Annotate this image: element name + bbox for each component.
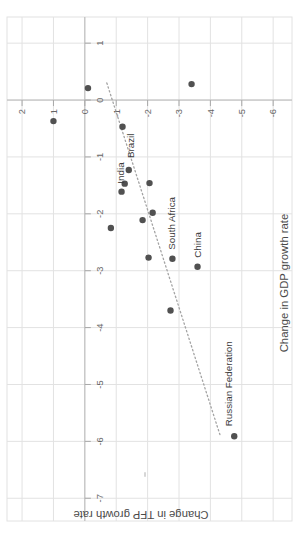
gridlines [7,17,292,521]
rotated-chart-wrapper: 10-1-2-3-4-5-6-7210-1-2-3-4-5-6 BrazilIn… [0,0,303,533]
data-point [169,256,175,262]
y-tick-label: -6 [268,109,278,117]
country-label: India [115,162,126,184]
x-tick-label: -4 [95,323,105,331]
data-point [167,307,173,313]
x-tick-label: 1 [95,41,105,46]
y-tick-label: -2 [143,109,153,117]
country-label: Brazil [125,134,136,159]
scatter-chart: 10-1-2-3-4-5-6-7210-1-2-3-4-5-6 BrazilIn… [0,0,303,533]
x-tick-label: -6 [95,437,105,445]
plot-border [7,17,292,521]
x-tick-label: -2 [95,210,105,218]
point-labels: BrazilIndiaSouth AfricaChinaRussian Fede… [115,134,234,427]
x-axis-title: Change in GDP growth rate [278,214,290,353]
data-points [50,81,237,440]
x-tick-label: -7 [95,494,105,502]
data-point [194,264,200,270]
data-point [85,85,91,91]
stray-mark [144,472,146,477]
y-tick-label: -3 [174,109,184,117]
x-tick-label: 0 [95,97,105,102]
data-point [139,217,145,223]
x-tick-label: -3 [95,267,105,275]
screenshot-canvas: 10-1-2-3-4-5-6-7210-1-2-3-4-5-6 BrazilIn… [0,0,303,533]
axes: 10-1-2-3-4-5-6-7210-1-2-3-4-5-6 [7,17,292,521]
y-axis-title: Change in TFP growth rate [73,509,208,521]
data-point [188,81,194,87]
y-tick-label: -5 [237,109,247,117]
data-point [145,254,151,260]
data-point [126,167,132,173]
x-tick-label: -5 [95,380,105,388]
data-point [231,433,237,439]
data-point [108,225,114,231]
country-label: Russian Federation [223,341,234,426]
data-point [149,209,155,215]
data-point [118,188,124,194]
data-point [50,118,56,124]
data-point [119,124,125,130]
y-tick-label: 2 [17,109,27,114]
country-label: China [192,232,203,258]
y-tick-label: 1 [49,109,59,114]
y-tick-label: 0 [80,109,90,114]
data-point [146,180,152,186]
country-label: South Africa [166,196,177,249]
x-tick-label: -1 [95,153,105,161]
y-tick-label: -4 [206,109,216,117]
